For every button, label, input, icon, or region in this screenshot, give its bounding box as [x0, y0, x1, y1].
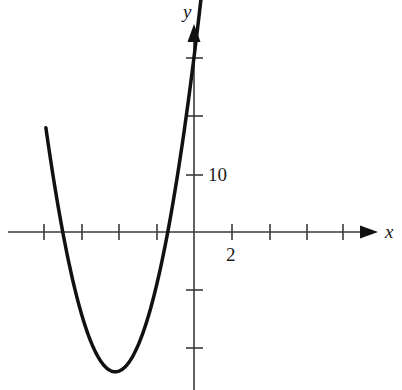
- y-tick-label-10: 10: [208, 165, 227, 184]
- x-axis-arrow-icon: [360, 226, 378, 239]
- x-axis-label: x: [385, 222, 393, 241]
- x-tick-label-2: 2: [226, 245, 236, 264]
- parabola-curve: [46, 0, 203, 372]
- y-axis-label: y: [183, 2, 191, 21]
- graph-canvas: [0, 0, 402, 390]
- figure-root: y x 10 2: [0, 0, 402, 390]
